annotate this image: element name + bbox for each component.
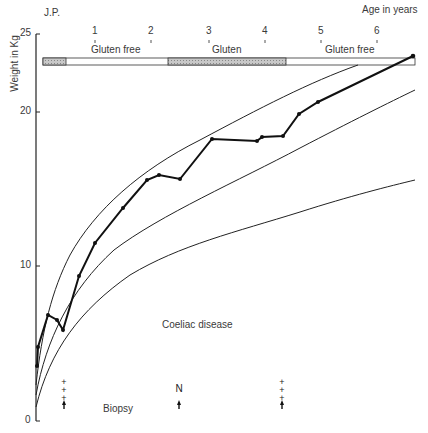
diet-period-bar: [43, 58, 415, 65]
y-tick-10: 10: [20, 259, 31, 270]
y-tick-25: 25: [20, 27, 31, 38]
reference-curve-middle: [36, 90, 415, 395]
biopsy-result-2: N: [173, 385, 185, 393]
period-label-gluten: Gluten: [212, 44, 241, 55]
x-axis-title: Age in years: [362, 4, 418, 15]
annotation-coeliac-disease: Coeliac disease: [162, 319, 233, 330]
y-axis-title: Weight in Kg: [9, 35, 20, 92]
x-tick-5: 5: [318, 25, 324, 36]
reference-curve-lower: [36, 180, 415, 407]
patient-label: J.P.: [44, 7, 60, 18]
period-label-gluten-free-2: Gluten free: [325, 44, 374, 55]
reference-curve-upper: [36, 65, 358, 385]
biopsy-label: Biopsy: [103, 403, 133, 414]
y-tick-0: 0: [25, 414, 31, 425]
growth-chart: [0, 0, 428, 433]
y-tick-20: 20: [20, 105, 31, 116]
x-tick-3: 3: [206, 25, 212, 36]
biopsy-result-1: + + +: [58, 378, 70, 402]
biopsy-result-3: + + +: [276, 378, 288, 402]
biopsy-arrows: [62, 400, 284, 409]
x-tick-6: 6: [374, 25, 380, 36]
x-tick-1: 1: [92, 25, 98, 36]
period-label-gluten-free-1: Gluten free: [91, 44, 140, 55]
x-tick-2: 2: [148, 25, 154, 36]
x-tick-4: 4: [262, 25, 268, 36]
